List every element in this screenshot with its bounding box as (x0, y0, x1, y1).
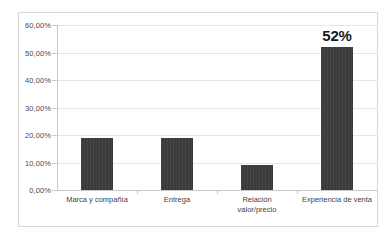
bar-relacion-valor-precio[interactable] (241, 165, 273, 190)
y-tick-label-0: 0,00% (7, 186, 51, 195)
category-separator-3 (297, 190, 298, 194)
y-tick-label-10: 10,00% (7, 159, 51, 168)
category-separator-1 (137, 190, 138, 194)
bar-entrega[interactable] (161, 138, 193, 190)
data-label-experiencia-de-venta: 52% (297, 27, 377, 44)
bar-chart-figure: 60,00% 50,00% 40,00% 30,00% 20,00% 10,00… (0, 0, 391, 240)
category-separator-4 (377, 190, 378, 194)
y-tick-label-30: 30,00% (7, 104, 51, 113)
category-label-relacion-valor-precio: Relación valor/precio (217, 195, 297, 215)
bar-slot-entrega (137, 25, 217, 190)
plot-area: 52% (57, 25, 377, 190)
bar-slot-relacion-valor-precio (217, 25, 297, 190)
x-axis-category-labels: Marca y compañía Entrega Relación valor/… (57, 195, 377, 227)
bar-slot-marca-y-compania (57, 25, 137, 190)
category-label-entrega: Entrega (137, 195, 217, 205)
bar-slot-experiencia-de-venta: 52% (297, 25, 377, 190)
y-axis-tick-labels: 60,00% 50,00% 40,00% 30,00% 20,00% 10,00… (5, 0, 51, 240)
y-tick-label-40: 40,00% (7, 76, 51, 85)
category-label-experiencia-de-venta: Experiencia de venta (297, 195, 377, 205)
y-tick-label-20: 20,00% (7, 131, 51, 140)
category-separator-2 (217, 190, 218, 194)
bar-experiencia-de-venta[interactable] (321, 47, 353, 190)
axis-tick-0 (52, 190, 57, 191)
category-label-marca-y-compania: Marca y compañía (57, 195, 137, 205)
y-tick-label-50: 50,00% (7, 49, 51, 58)
bar-marca-y-compania[interactable] (81, 138, 113, 190)
y-tick-label-60: 60,00% (7, 21, 51, 30)
